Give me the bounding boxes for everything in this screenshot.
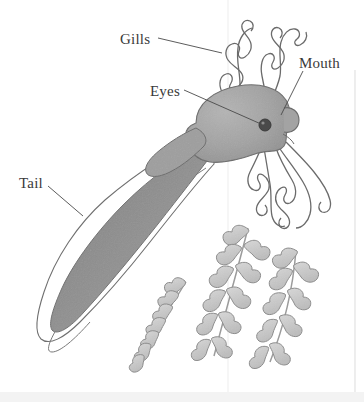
- eye-highlight: [261, 121, 264, 124]
- tadpole-figure: Gills Eyes Mouth Tail: [0, 0, 364, 402]
- bottom-band: [0, 392, 364, 402]
- label-tail: Tail: [19, 175, 43, 191]
- label-eyes: Eyes: [150, 83, 180, 99]
- label-mouth: Mouth: [299, 55, 340, 71]
- illustration-canvas: Gills Eyes Mouth Tail: [0, 0, 364, 402]
- label-gills: Gills: [120, 31, 150, 47]
- eye: [259, 119, 271, 131]
